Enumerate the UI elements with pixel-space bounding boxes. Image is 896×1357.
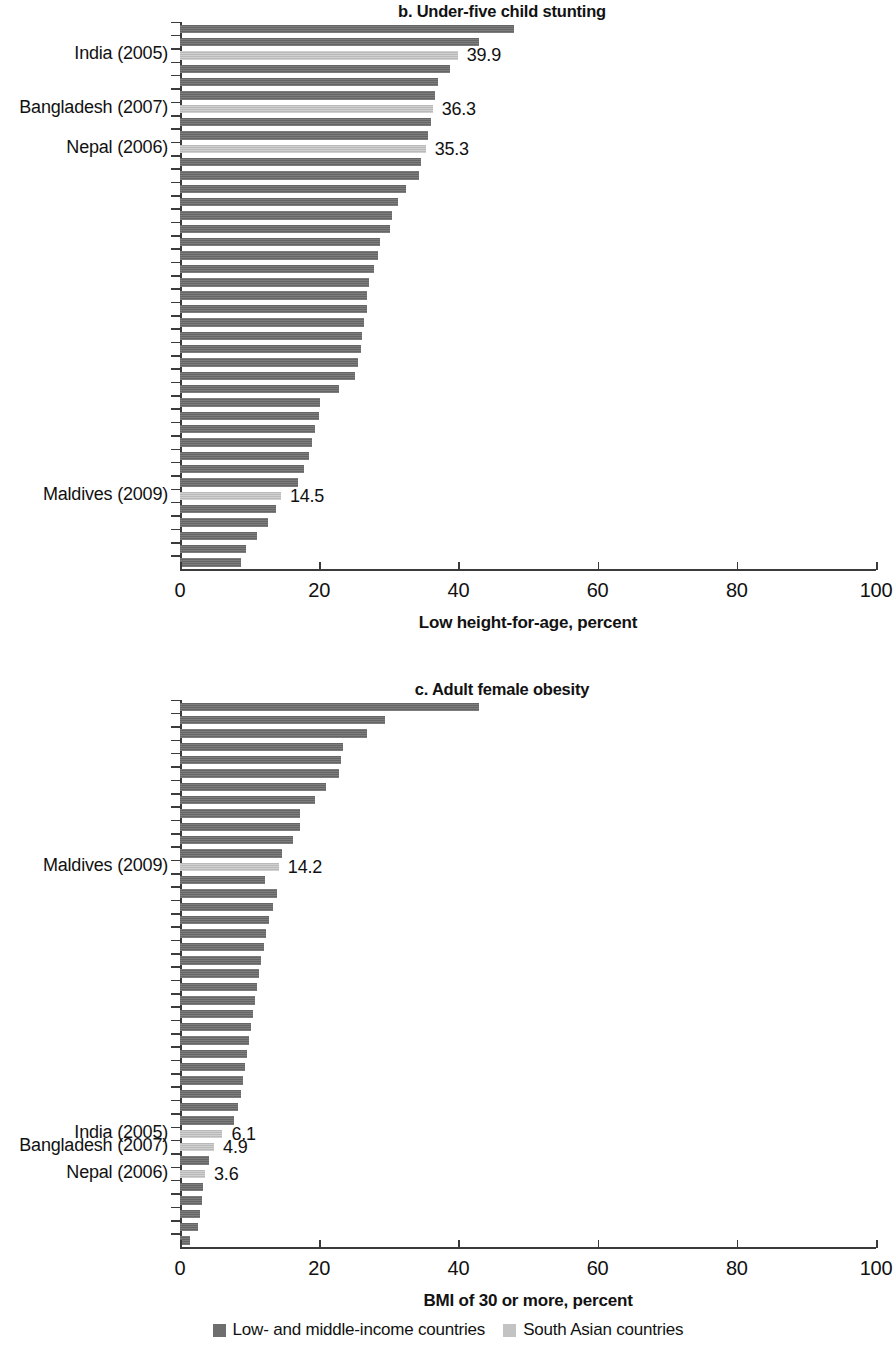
bar <box>180 929 266 937</box>
bar-row: Nepal (2006)35.3 <box>0 142 896 155</box>
bar <box>180 1103 238 1111</box>
bar-row <box>0 820 896 833</box>
bar-row <box>0 833 896 846</box>
y-axis-tick <box>171 182 180 184</box>
bar <box>180 518 268 526</box>
bar <box>180 278 369 286</box>
x-axis-tick <box>180 1240 182 1248</box>
bar <box>180 51 458 59</box>
bar-row <box>0 1060 896 1073</box>
y-axis-tick <box>171 275 180 277</box>
bar <box>180 398 320 406</box>
bar <box>180 251 378 259</box>
bar-row <box>0 954 896 967</box>
bar <box>180 25 514 33</box>
bar <box>180 505 276 513</box>
country-label: Maldives (2009) <box>0 855 180 876</box>
bar-row <box>0 967 896 980</box>
bar <box>180 743 343 751</box>
bar-row <box>0 887 896 900</box>
bar <box>180 118 431 126</box>
bar-row <box>0 182 896 195</box>
y-axis-tick <box>171 806 180 808</box>
bar-row <box>0 780 896 793</box>
panel-c-bar-rows: Maldives (2009)14.2India (2005)6.1Bangla… <box>0 700 896 1247</box>
bar-row <box>0 396 896 409</box>
bar-row <box>0 195 896 208</box>
bar <box>180 969 259 977</box>
bar-row <box>0 422 896 435</box>
y-axis-tick <box>171 382 180 384</box>
bar <box>180 716 385 724</box>
y-axis-tick <box>171 900 180 902</box>
y-axis-tick <box>171 395 180 397</box>
y-axis-tick <box>171 886 180 888</box>
bar <box>180 345 361 353</box>
bar-row <box>0 740 896 753</box>
y-axis-tick <box>171 1060 180 1062</box>
bar <box>180 1156 209 1164</box>
bar <box>180 729 367 737</box>
bar-row <box>0 382 896 395</box>
y-axis-tick <box>171 1020 180 1022</box>
bar <box>180 198 398 206</box>
bar <box>180 823 300 831</box>
bar <box>180 916 269 924</box>
x-axis-tick <box>319 1240 321 1248</box>
y-axis-tick <box>171 993 180 995</box>
bar <box>180 211 392 219</box>
bar <box>180 492 281 500</box>
bar-row: India (2005)39.9 <box>0 49 896 62</box>
x-axis-tick <box>598 562 600 570</box>
bar-row <box>0 369 896 382</box>
bar-row <box>0 462 896 475</box>
y-axis-tick <box>171 1193 180 1195</box>
bar-row <box>0 900 896 913</box>
bar-row <box>0 209 896 222</box>
bar-row <box>0 727 896 740</box>
bar <box>180 783 326 791</box>
y-axis-tick <box>171 833 180 835</box>
panel-c-plot: Maldives (2009)14.2India (2005)6.1Bangla… <box>0 700 896 1247</box>
y-axis-tick <box>171 793 180 795</box>
country-label: Bangladesh (2007) <box>0 97 180 118</box>
bar <box>180 996 255 1004</box>
y-axis-tick <box>171 1100 180 1102</box>
bar-row <box>0 1034 896 1047</box>
y-axis-tick <box>171 753 180 755</box>
y-axis-tick <box>171 873 180 875</box>
bar <box>180 956 261 964</box>
bar-row: Nepal (2006)3.6 <box>0 1167 896 1180</box>
bar <box>180 38 479 46</box>
panel-c-title: c. Adult female obesity <box>0 678 896 700</box>
bar-row <box>0 1207 896 1220</box>
y-axis-tick <box>171 475 180 477</box>
bar <box>180 889 277 897</box>
y-axis-tick <box>171 713 180 715</box>
x-axis-tick <box>458 562 460 570</box>
bar-row <box>0 329 896 342</box>
y-axis-tick <box>171 288 180 290</box>
legend-item: South Asian countries <box>503 1320 683 1340</box>
bar <box>180 131 428 139</box>
bar-row <box>0 807 896 820</box>
panel-b-plot: India (2005)39.9Bangladesh (2007)36.3Nep… <box>0 22 896 569</box>
y-axis-tick <box>171 700 180 702</box>
y-axis-tick <box>171 555 180 557</box>
bar <box>180 983 257 991</box>
y-axis-tick <box>171 1207 180 1209</box>
y-axis-tick <box>171 1033 180 1035</box>
bar <box>180 876 265 884</box>
bar <box>180 1076 243 1084</box>
x-axis-tick-label: 80 <box>726 1257 748 1280</box>
panel-adult-female-obesity: c. Adult female obesity Maldives (2009)1… <box>0 678 896 1247</box>
y-axis-tick <box>171 342 180 344</box>
bar-row <box>0 222 896 235</box>
bar <box>180 1050 247 1058</box>
bar <box>180 836 293 844</box>
bar-row <box>0 1007 896 1020</box>
y-axis-tick <box>171 422 180 424</box>
y-axis-tick <box>171 515 180 517</box>
bar-row <box>0 994 896 1007</box>
panel-under-five-child-stunting: b. Under-five child stunting India (2005… <box>0 0 896 569</box>
